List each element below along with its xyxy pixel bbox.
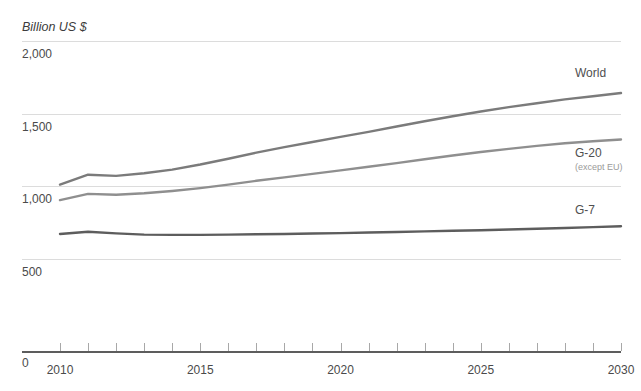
x-axis-tickmarks — [61, 343, 622, 351]
x-tick-label-2030: 2030 — [608, 363, 635, 377]
chart-background — [0, 0, 641, 391]
line-chart: 2,0001,5001,0005000 20102015202020252030… — [0, 0, 641, 391]
chart-container: 2,0001,5001,0005000 20102015202020252030… — [0, 0, 641, 391]
y-axis-unit-title: Billion US $ — [22, 20, 88, 34]
series-label-0: World — [575, 66, 606, 80]
series-sublabel-1: (except EU) — [575, 162, 623, 172]
y-tick-label-2000: 2,000 — [22, 47, 52, 61]
y-tick-label-1500: 1,500 — [22, 120, 52, 134]
series-label-1: G-20 — [575, 146, 602, 160]
x-tick-label-2010: 2010 — [47, 363, 74, 377]
y-axis-zero-label: 0 — [22, 356, 29, 370]
y-tick-label-1000: 1,000 — [22, 192, 52, 206]
x-tick-label-2020: 2020 — [327, 363, 354, 377]
series-label-2: G-7 — [575, 203, 595, 217]
y-tick-label-500: 500 — [22, 265, 42, 279]
x-tick-label-2015: 2015 — [187, 363, 214, 377]
x-tick-label-2025: 2025 — [467, 363, 494, 377]
